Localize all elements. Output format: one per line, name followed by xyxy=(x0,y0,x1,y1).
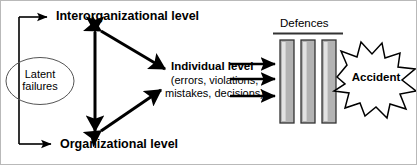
label-individual-level: Individual level xyxy=(171,60,253,73)
double-arrow-interorg-individual xyxy=(101,31,165,69)
defence-bar-2 xyxy=(301,40,315,123)
defence-bar-1 xyxy=(280,40,294,123)
label-defences: Defences xyxy=(280,17,329,30)
label-individual-level-detail: (errors, violations, mistakes, decisions… xyxy=(162,74,267,100)
label-interorganizational-level: Interorganizational level xyxy=(56,9,199,23)
label-organizational-level: Organizational level xyxy=(60,137,178,151)
defence-bars xyxy=(280,40,336,123)
label-accident: Accident xyxy=(345,71,407,84)
defence-bar-3 xyxy=(322,40,336,123)
label-latent-failures: Latent failures xyxy=(9,68,71,93)
accident-causation-diagram: Interorganizational level Organizational… xyxy=(0,0,417,165)
double-arrow-organizational-individual xyxy=(101,90,161,131)
